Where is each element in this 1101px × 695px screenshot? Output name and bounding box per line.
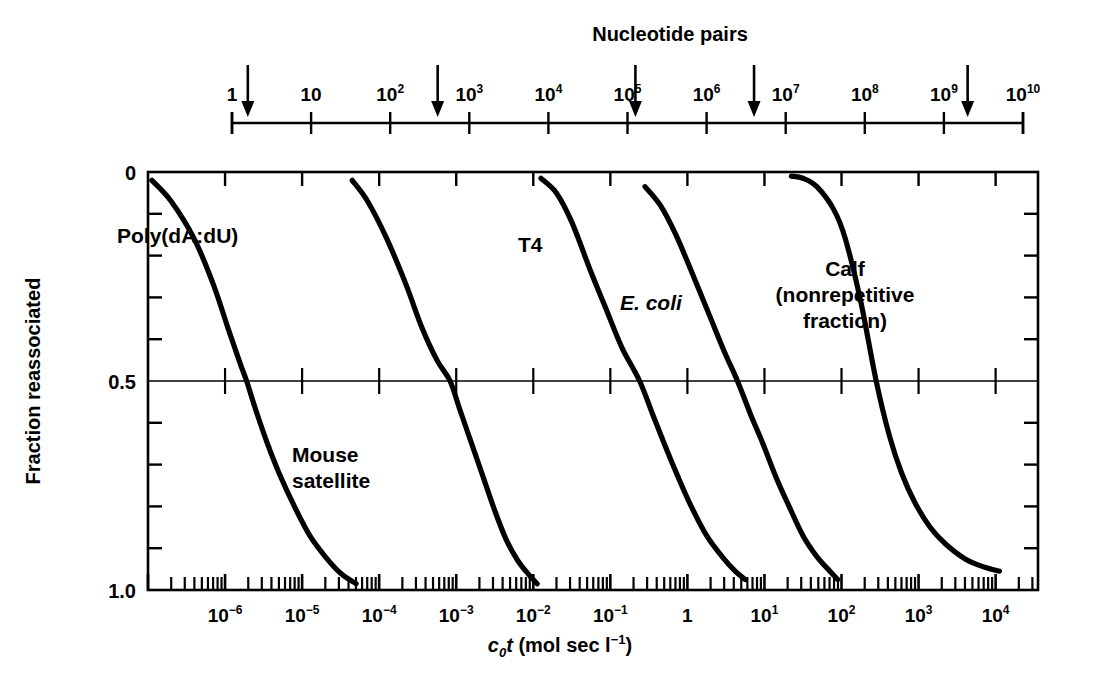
nucleotide-pointer-arrow	[748, 65, 761, 117]
cot-curve-figure: Nucleotide pairs 11010210310410510610710…	[0, 0, 1101, 695]
tick-exponent: 2	[849, 603, 856, 617]
tick-exponent: −2	[537, 603, 551, 617]
top-axis-tick-label: 10	[301, 84, 322, 105]
tick-base: 10	[376, 84, 397, 105]
top-axis-title: Nucleotide pairs	[592, 23, 748, 45]
reassociation-curve	[791, 176, 999, 571]
top-axis-tick-label: 103	[455, 82, 483, 105]
tick-base: 10	[982, 605, 1003, 626]
x-axis-tick-label: 10−2	[516, 603, 551, 626]
svg-text:c0t (mol sec l−1): c0t (mol sec l−1)	[488, 632, 632, 660]
tick-exponent: 8	[872, 82, 879, 96]
y-axis-tick-label: 0.5	[108, 371, 136, 393]
tick-exponent: 10	[1027, 82, 1041, 96]
tick-base: 10	[828, 605, 849, 626]
tick-exponent: −3	[460, 603, 474, 617]
tick-exponent: 7	[793, 82, 800, 96]
tick-exponent: 3	[477, 82, 484, 96]
tick-base: 10	[693, 84, 714, 105]
arrow-head	[431, 101, 444, 117]
tick-base: 10	[516, 605, 537, 626]
arrow-head	[241, 101, 254, 117]
top-axis-tick-label: 102	[376, 82, 404, 105]
top-axis-elements: 1101021031041051061071081091010	[227, 65, 1041, 134]
top-axis-tick-label: 1	[227, 84, 238, 105]
x-title-close: )	[626, 634, 633, 656]
plot-area: 00.51.0 10−610−510−410−310−210−111011021…	[108, 162, 1038, 626]
tick-exponent: 3	[926, 603, 933, 617]
tick-base: 10	[851, 84, 872, 105]
tick-base: 10	[930, 84, 951, 105]
x-axis-tick-label: 1	[682, 605, 693, 626]
arrow-head	[748, 101, 761, 117]
tick-exponent: 1	[772, 603, 779, 617]
tick-base: 10	[905, 605, 926, 626]
nucleotide-pointer-arrow	[431, 65, 444, 117]
x-axis-tick-label: 10−3	[439, 603, 474, 626]
x-title-c: c	[488, 634, 499, 656]
nucleotide-pairs-axis: Nucleotide pairs 11010210310410510610710…	[227, 23, 1041, 134]
nucleotide-pointer-arrow	[241, 65, 254, 117]
tick-base: 10	[362, 605, 383, 626]
tick-base: 1	[227, 84, 238, 105]
tick-base: 10	[751, 605, 772, 626]
tick-exponent: −6	[229, 603, 243, 617]
tick-exponent: 4	[1003, 603, 1010, 617]
curve-label-poly: Poly(dA:dU)	[117, 224, 238, 247]
curve-label-t4: T4	[518, 233, 543, 256]
top-axis-tick-label: 104	[534, 82, 562, 105]
x-axis-title: c0t (mol sec l−1)	[488, 632, 632, 660]
curve-label-mouse-line2: satellite	[292, 469, 370, 492]
tick-base: 10	[772, 84, 793, 105]
curve-label-mouse-line1: Mouse	[292, 443, 359, 466]
curve-lines	[152, 176, 1000, 584]
curve-label-calf-line1: Calf	[825, 257, 866, 280]
tick-exponent: 9	[951, 82, 958, 96]
tick-base: 10	[439, 605, 460, 626]
reassociation-curve	[541, 178, 745, 579]
y-axis-tick-label: 0	[125, 162, 136, 184]
top-axis-tick-label: 1010	[1006, 82, 1041, 105]
tick-base: 10	[285, 605, 306, 626]
arrow-head	[629, 101, 642, 117]
tick-base: 10	[1006, 84, 1027, 105]
x-axis-tick-labels: 10−610−510−410−310−210−11101102103104	[208, 603, 1010, 626]
tick-exponent: 2	[397, 82, 404, 96]
nucleotide-pointer-arrow	[961, 65, 974, 117]
tick-base: 10	[455, 84, 476, 105]
tick-exponent: −5	[306, 603, 320, 617]
x-axis-tick-label: 104	[982, 603, 1010, 626]
x-axis-tick-label: 101	[751, 603, 779, 626]
tick-base: 10	[301, 84, 322, 105]
x-axis-tick-label: 103	[905, 603, 933, 626]
curve-label-calf-line2: (nonrepetitive	[776, 283, 915, 306]
tick-base: 10	[593, 605, 614, 626]
y-axis-title: Fraction reassociated	[22, 278, 44, 485]
y-axis-tick-label: 1.0	[108, 580, 136, 602]
tick-exponent: 6	[714, 82, 721, 96]
tick-base: 10	[208, 605, 229, 626]
x-axis-tick-label: 102	[828, 603, 856, 626]
x-title-sup: −1	[611, 632, 626, 647]
x-axis-tick-label: 10−1	[593, 603, 628, 626]
tick-base: 10	[534, 84, 555, 105]
curve-label-ecoli: E. coli	[620, 291, 683, 314]
top-axis-tick-label: 109	[930, 82, 958, 105]
curve-label-calf-line3: fraction)	[803, 309, 887, 332]
x-axis-tick-label: 10−5	[285, 603, 320, 626]
figure-canvas: Nucleotide pairs 11010210310410510610710…	[0, 0, 1101, 695]
reassociation-curve	[645, 187, 838, 580]
tick-exponent: −1	[614, 603, 628, 617]
x-axis-tick-label: 10−4	[362, 603, 397, 626]
top-axis-tick-label: 107	[772, 82, 800, 105]
top-axis-tick-label: 108	[851, 82, 879, 105]
x-axis-tick-label: 10−6	[208, 603, 243, 626]
arrow-head	[961, 101, 974, 117]
tick-exponent: −4	[383, 603, 397, 617]
x-title-rest: (mol sec l	[513, 634, 611, 656]
top-axis-tick-label: 106	[693, 82, 721, 105]
tick-exponent: 4	[556, 82, 563, 96]
